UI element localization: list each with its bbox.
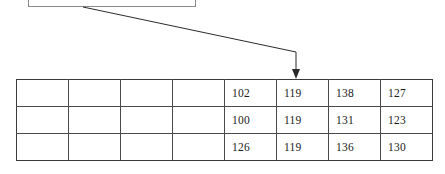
table-cell [173, 80, 225, 107]
table-cell: 100 [225, 107, 277, 134]
table-cell [17, 134, 69, 161]
table-cell: 119 [277, 134, 329, 161]
table-body: 102 119 138 127 100 119 131 123 126 [17, 80, 433, 161]
table-cell: 127 [381, 80, 433, 107]
table-cell: 136 [329, 134, 381, 161]
table-cell: 130 [381, 134, 433, 161]
table-cell [69, 80, 121, 107]
table-cell [121, 134, 173, 161]
table-cell: 119 [277, 107, 329, 134]
data-table: 102 119 138 127 100 119 131 123 126 [16, 79, 433, 161]
table-cell: 102 [225, 80, 277, 107]
table-cell: 123 [381, 107, 433, 134]
table-cell [69, 107, 121, 134]
table-row: 126 119 136 130 [17, 134, 433, 161]
table-cell: 119 [277, 80, 329, 107]
arrowhead-icon [292, 69, 300, 79]
table-row: 102 119 138 127 [17, 80, 433, 107]
table-cell [173, 134, 225, 161]
table-row: 100 119 131 123 [17, 107, 433, 134]
table-cell [173, 107, 225, 134]
table-cell: 138 [329, 80, 381, 107]
leader-line [83, 7, 296, 73]
table-cell [17, 107, 69, 134]
table-cell: 126 [225, 134, 277, 161]
table-cell [121, 80, 173, 107]
table-cell [69, 134, 121, 161]
table-cell [121, 107, 173, 134]
table-cell [17, 80, 69, 107]
figure-canvas: 102 119 138 127 100 119 131 123 126 [0, 0, 445, 174]
callout-box [28, 0, 196, 7]
table-cell: 131 [329, 107, 381, 134]
